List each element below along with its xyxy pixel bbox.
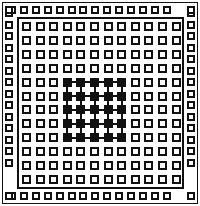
core-pad-empty — [90, 50, 99, 59]
core-pad-empty — [90, 175, 99, 184]
core-pad-empty — [49, 147, 58, 156]
core-pad-empty — [22, 22, 31, 31]
core-pad-empty — [76, 64, 85, 73]
core-pad-empty — [117, 147, 126, 156]
core-pad-filled — [76, 119, 85, 128]
core-pad-empty — [63, 64, 72, 73]
figure-canvas — [0, 0, 200, 206]
core-pad-empty — [172, 133, 181, 142]
core-pad-array — [0, 0, 200, 206]
core-pad-empty — [76, 36, 85, 45]
core-pad-empty — [90, 22, 99, 31]
core-pad-empty — [36, 175, 45, 184]
core-pad-empty — [158, 161, 167, 170]
core-pad-empty — [144, 105, 153, 114]
core-pad-empty — [158, 147, 167, 156]
core-pad-empty — [104, 147, 113, 156]
core-pad-empty — [49, 50, 58, 59]
core-pad-empty — [144, 175, 153, 184]
core-pad-empty — [36, 133, 45, 142]
core-pad-empty — [158, 36, 167, 45]
core-pad-empty — [76, 22, 85, 31]
core-pad-empty — [49, 22, 58, 31]
core-pad-filled — [76, 92, 85, 101]
core-pad-empty — [131, 78, 140, 87]
core-pad-empty — [131, 50, 140, 59]
core-pad-filled — [90, 92, 99, 101]
core-pad-empty — [63, 161, 72, 170]
core-pad-filled — [117, 119, 126, 128]
core-pad-filled — [63, 92, 72, 101]
core-pad-empty — [49, 92, 58, 101]
core-pad-filled — [76, 105, 85, 114]
core-pad-empty — [117, 161, 126, 170]
core-pad-empty — [36, 78, 45, 87]
core-pad-empty — [49, 36, 58, 45]
core-pad-empty — [90, 36, 99, 45]
core-pad-empty — [158, 22, 167, 31]
core-pad-empty — [22, 161, 31, 170]
core-pad-empty — [76, 161, 85, 170]
core-pad-empty — [104, 50, 113, 59]
core-pad-empty — [63, 175, 72, 184]
core-pad-empty — [117, 50, 126, 59]
core-pad-empty — [172, 64, 181, 73]
core-pad-filled — [117, 133, 126, 142]
core-pad-empty — [131, 64, 140, 73]
core-pad-empty — [158, 64, 167, 73]
core-pad-empty — [117, 64, 126, 73]
core-pad-empty — [158, 119, 167, 128]
core-pad-empty — [63, 50, 72, 59]
core-pad-empty — [117, 22, 126, 31]
core-pad-empty — [90, 161, 99, 170]
core-pad-empty — [63, 147, 72, 156]
core-pad-empty — [49, 119, 58, 128]
core-pad-filled — [117, 78, 126, 87]
core-pad-empty — [131, 22, 140, 31]
core-pad-empty — [22, 175, 31, 184]
core-pad-empty — [104, 64, 113, 73]
core-pad-empty — [158, 78, 167, 87]
core-pad-empty — [104, 175, 113, 184]
core-pad-empty — [36, 161, 45, 170]
core-pad-empty — [36, 22, 45, 31]
core-pad-empty — [131, 105, 140, 114]
core-pad-empty — [144, 92, 153, 101]
core-pad-empty — [63, 36, 72, 45]
core-pad-empty — [144, 22, 153, 31]
core-pad-empty — [144, 78, 153, 87]
core-pad-empty — [131, 175, 140, 184]
core-pad-empty — [49, 105, 58, 114]
core-pad-empty — [49, 64, 58, 73]
core-pad-filled — [76, 78, 85, 87]
core-pad-empty — [49, 78, 58, 87]
core-pad-empty — [131, 36, 140, 45]
core-pad-empty — [172, 105, 181, 114]
core-pad-filled — [104, 119, 113, 128]
core-pad-filled — [90, 119, 99, 128]
core-pad-filled — [104, 133, 113, 142]
core-pad-filled — [117, 105, 126, 114]
core-pad-empty — [131, 147, 140, 156]
core-pad-empty — [172, 119, 181, 128]
core-pad-empty — [104, 161, 113, 170]
core-pad-empty — [131, 133, 140, 142]
core-pad-empty — [90, 64, 99, 73]
core-pad-empty — [36, 147, 45, 156]
core-pad-empty — [131, 119, 140, 128]
core-pad-empty — [158, 105, 167, 114]
core-pad-empty — [22, 36, 31, 45]
core-pad-filled — [117, 92, 126, 101]
core-pad-empty — [144, 50, 153, 59]
core-pad-empty — [36, 64, 45, 73]
core-pad-empty — [76, 50, 85, 59]
core-pad-empty — [36, 50, 45, 59]
core-pad-empty — [158, 175, 167, 184]
core-pad-filled — [63, 119, 72, 128]
core-pad-filled — [90, 78, 99, 87]
core-pad-filled — [76, 133, 85, 142]
core-pad-empty — [22, 92, 31, 101]
core-pad-empty — [144, 161, 153, 170]
core-pad-empty — [22, 64, 31, 73]
core-pad-empty — [144, 147, 153, 156]
